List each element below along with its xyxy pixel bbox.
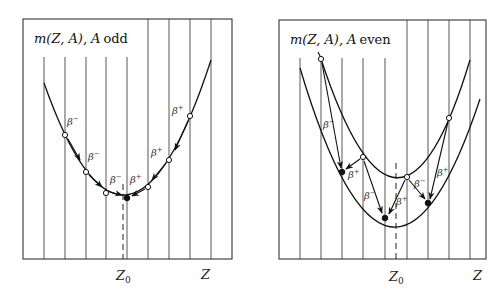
z-axis-label: Z — [472, 268, 483, 283]
beta-minus-label: β− — [363, 189, 376, 201]
nucleus-unstable — [446, 115, 451, 120]
beta-plus-label: β+ — [129, 173, 142, 185]
beta-plus-arrows — [132, 121, 188, 196]
beta-plus-label: β+ — [436, 166, 449, 178]
nucleus-unstable — [404, 174, 409, 179]
panel-frame — [279, 20, 486, 259]
panel-title: m(Z, A),Aeven — [290, 32, 391, 47]
nucleus-stable — [425, 200, 431, 206]
nucleus-unstable — [103, 190, 108, 195]
z-axis-label: Z — [200, 267, 211, 282]
panel-a-odd: β− β− β− β+ β+ β+ m(Z, A),Aodd Z0 Z — [23, 19, 232, 285]
z0-axis-label: Z0 — [115, 268, 131, 285]
beta-plus-label: β+ — [171, 104, 184, 116]
z0-axis-label: Z0 — [388, 269, 404, 286]
beta-plus-label: β+ — [395, 195, 408, 207]
z-grid-lines — [44, 19, 211, 259]
mass-parabola — [44, 60, 211, 195]
beta-minus-label: β− — [66, 115, 79, 127]
beta-plus-label: β+ — [150, 146, 163, 158]
nucleus-stable — [382, 215, 388, 221]
beta-minus-label: β− — [322, 118, 335, 130]
beta-plus-label: β+ — [347, 168, 360, 180]
nuclear-mass-parabola-diagram: β− β− β− β+ β+ β+ m(Z, A),Aodd Z0 Z — [0, 0, 494, 299]
beta-minus-label: β− — [109, 173, 122, 185]
nucleus-unstable — [166, 157, 171, 162]
z-grid-lines — [300, 20, 470, 259]
beta-minus-label: β− — [413, 177, 426, 189]
beta-minus-arrows — [68, 139, 122, 195]
panel-title: m(Z, A),Aodd — [34, 31, 128, 46]
nucleus-unstable — [145, 184, 150, 189]
nucleus-unstable — [62, 132, 67, 137]
nucleus-unstable — [83, 169, 88, 174]
nucleus-stable — [339, 169, 345, 175]
beta-minus-label: β− — [87, 150, 100, 162]
nucleus-stable — [124, 195, 130, 201]
nucleus-unstable — [318, 56, 323, 61]
panel-a-even: β− β+ β− β+ β− β+ m(Z, A),Aeven Z0 Z — [279, 20, 486, 286]
decay-arrows — [318, 52, 448, 214]
nucleus-unstable — [360, 154, 365, 159]
panel-frame — [23, 19, 232, 259]
nucleus-unstable — [187, 113, 192, 118]
